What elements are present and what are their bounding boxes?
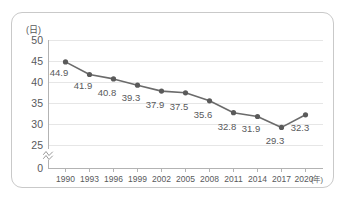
axis-break-icon	[44, 152, 53, 160]
data-point	[63, 59, 68, 64]
y-tick-label-40: 40	[21, 77, 43, 88]
data-point	[159, 89, 164, 94]
data-point	[111, 76, 116, 81]
data-label-2008: 35.6	[190, 110, 216, 120]
data-label-1996: 40.8	[94, 88, 120, 98]
figure-caption	[14, 194, 332, 202]
y-tick-label-45: 45	[21, 56, 43, 67]
data-point	[303, 112, 308, 117]
y-tick-label-50: 50	[21, 35, 43, 46]
data-label-1999: 39.3	[118, 93, 144, 103]
y-tick-label-25: 25	[21, 140, 43, 151]
x-axis-unit-label: (年)	[311, 176, 323, 184]
data-label-2002: 37.9	[142, 100, 168, 110]
y-tick-label-0: 0	[21, 163, 43, 174]
data-point	[207, 98, 212, 103]
data-point	[87, 72, 92, 77]
data-label-2020: 32.3	[287, 123, 313, 133]
data-point	[231, 110, 236, 115]
data-label-1993: 41.9	[70, 81, 96, 91]
chart-card: (日) 50 45 40 35 30 25 0 1990 1993 1996 1…	[11, 12, 334, 188]
y-tick-label-35: 35	[21, 98, 43, 109]
data-point	[183, 90, 188, 95]
data-label-2011: 32.8	[214, 122, 240, 132]
data-label-2014: 31.9	[238, 124, 264, 134]
data-point	[135, 83, 140, 88]
data-point	[255, 114, 260, 119]
y-tick-label-30: 30	[21, 119, 43, 130]
line-chart: (日) 50 45 40 35 30 25 0 1990 1993 1996 1…	[12, 13, 335, 189]
data-label-2017: 29.3	[262, 136, 288, 146]
data-point	[279, 125, 284, 130]
data-label-2005: 37.5	[166, 102, 192, 112]
data-label-1990: 44.9	[46, 68, 72, 78]
